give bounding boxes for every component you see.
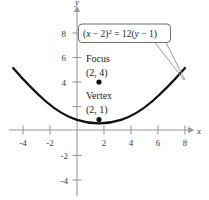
x-axis-label: x bbox=[196, 126, 201, 136]
y-axis-label: y bbox=[74, 0, 79, 7]
x-tick-label: 2 bbox=[102, 138, 107, 148]
equation-equals: = 12( bbox=[112, 29, 135, 40]
vertex-coords: (2, 1) bbox=[86, 104, 108, 116]
x-axis-arrow bbox=[188, 127, 195, 133]
y-tick-label: 8 bbox=[62, 29, 67, 39]
leader-line-right bbox=[166, 43, 185, 81]
leader-line-left bbox=[155, 43, 184, 81]
equation-lhs-minus: − 2) bbox=[90, 29, 108, 40]
focus-label: Focus bbox=[86, 53, 110, 64]
y-tick-label: -2 bbox=[61, 151, 69, 161]
vertex-point bbox=[96, 117, 101, 122]
x-tick-label: -4 bbox=[19, 138, 27, 148]
equation-rhs-end: − 1) bbox=[139, 29, 157, 40]
equation-text: (x − 2)2 = 12(y − 1) bbox=[83, 28, 157, 41]
y-tick-label: -4 bbox=[61, 176, 69, 186]
parabola-figure: -4 -2 2 4 6 8 8 6 4 -2 -4 x y (x − 2)2 =… bbox=[0, 0, 209, 200]
x-tick-label: 4 bbox=[129, 138, 134, 148]
x-tick-label: 6 bbox=[156, 138, 161, 148]
focus-coords: (2, 4) bbox=[86, 67, 108, 79]
vertex-label: Vertex bbox=[86, 90, 112, 101]
y-tick-label: 4 bbox=[62, 78, 67, 88]
x-tick-label: -2 bbox=[46, 138, 54, 148]
x-tick-label: 8 bbox=[183, 138, 188, 148]
focus-point bbox=[96, 79, 101, 84]
y-tick-label: 6 bbox=[62, 53, 67, 63]
